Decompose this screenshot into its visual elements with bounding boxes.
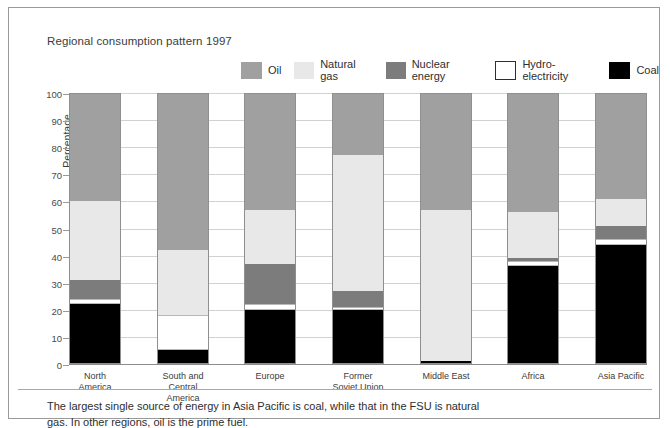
legend-swatch-icon (609, 62, 630, 79)
y-tick-label: 70 (51, 170, 62, 181)
stacked-bar[interactable] (507, 93, 559, 364)
bar-segment-natural-gas[interactable] (244, 210, 296, 264)
y-tick-label: 50 (51, 224, 62, 235)
legend-label: Oil (268, 64, 281, 76)
plot-area: Percentage 0102030405060708090100 North … (69, 93, 647, 364)
legend-swatch-icon (294, 62, 314, 79)
bar-segment-oil[interactable] (420, 93, 472, 210)
bar-segment-oil[interactable] (244, 93, 296, 210)
legend-item-nuclear-energy: Nuclear energy (386, 58, 482, 82)
y-tick-label: 20 (51, 305, 62, 316)
y-tick-label: 90 (51, 116, 62, 127)
y-tick-label: 100 (46, 89, 62, 100)
stacked-bar[interactable] (332, 93, 384, 364)
chart-caption: The largest single source of energy in A… (47, 399, 487, 428)
bar-segment-coal[interactable] (595, 245, 647, 364)
legend-item-coal: Coal (609, 62, 659, 79)
bar-segment-coal[interactable] (507, 266, 559, 364)
bar-segment-nuclear-energy[interactable] (332, 291, 384, 307)
stacked-bar[interactable] (595, 93, 647, 364)
x-axis-label: Africa (507, 371, 559, 382)
bar-segment-coal[interactable] (420, 361, 472, 364)
legend-label: Natural gas (320, 58, 373, 82)
bar-segment-coal[interactable] (157, 350, 209, 364)
stacked-bar[interactable] (157, 93, 209, 364)
legend-swatch-icon (495, 61, 517, 80)
legend-swatch-icon (386, 62, 406, 79)
bar-group[interactable]: Middle East (420, 93, 472, 364)
bar-segment-natural-gas[interactable] (595, 199, 647, 226)
bar-segment-oil[interactable] (595, 93, 647, 199)
y-tick-label: 80 (51, 143, 62, 154)
legend-item-natural-gas: Natural gas (294, 58, 372, 82)
bar-segment-natural-gas[interactable] (332, 155, 384, 291)
stacked-bar[interactable] (244, 93, 296, 364)
bar-segment-natural-gas[interactable] (420, 210, 472, 362)
bar-segment-natural-gas[interactable] (69, 201, 121, 280)
bar-segment-coal[interactable] (244, 310, 296, 364)
bar-group[interactable]: Former Soviet Union (332, 93, 384, 364)
chart-legend: OilNatural gasNuclear energyHydro-electr… (241, 58, 659, 82)
chart-title: Regional consumption pattern 1997 (47, 35, 232, 47)
legend-label: Coal (636, 64, 659, 76)
bar-segment-oil[interactable] (157, 93, 209, 250)
stacked-bar[interactable] (420, 93, 472, 364)
bar-segment-nuclear-energy[interactable] (69, 280, 121, 299)
gridline: 0 (69, 364, 647, 365)
x-axis-label: Middle East (420, 371, 472, 382)
caption-divider (18, 389, 652, 390)
y-tick-label: 10 (51, 332, 62, 343)
y-tick-label: 60 (51, 197, 62, 208)
y-tick-mark (63, 365, 69, 366)
legend-swatch-icon (241, 62, 262, 79)
bar-segment-natural-gas[interactable] (157, 250, 209, 315)
bar-group[interactable]: South and Central America (157, 93, 209, 364)
bar-segment-natural-gas[interactable] (507, 212, 559, 258)
legend-item-hydro-electricity: Hydro-electricity (495, 58, 597, 82)
figure-panel: Regional consumption pattern 1997 OilNat… (8, 7, 660, 419)
stacked-bar[interactable] (69, 93, 121, 364)
bar-group[interactable]: North America (69, 93, 121, 364)
x-axis-label: Asia Pacific (595, 371, 647, 382)
bar-segment-nuclear-energy[interactable] (595, 226, 647, 240)
y-tick-label: 0 (57, 360, 62, 371)
bar-group[interactable]: Africa (507, 93, 559, 364)
legend-label: Nuclear energy (412, 58, 482, 82)
bar-group[interactable]: Europe (244, 93, 296, 364)
bar-segment-oil[interactable] (507, 93, 559, 212)
bar-segment-coal[interactable] (69, 304, 121, 364)
bar-segment-nuclear-energy[interactable] (244, 264, 296, 305)
x-axis-label: Europe (244, 371, 296, 382)
bar-group[interactable]: Asia Pacific (595, 93, 647, 364)
legend-label: Hydro-electricity (522, 58, 596, 82)
bar-segment-oil[interactable] (332, 93, 384, 155)
bar-segment-oil[interactable] (69, 93, 121, 201)
legend-item-oil: Oil (241, 62, 281, 79)
y-tick-label: 40 (51, 251, 62, 262)
bar-segment-coal[interactable] (332, 310, 384, 364)
y-tick-label: 30 (51, 278, 62, 289)
bar-segment-hydro-electricity[interactable] (157, 315, 209, 350)
